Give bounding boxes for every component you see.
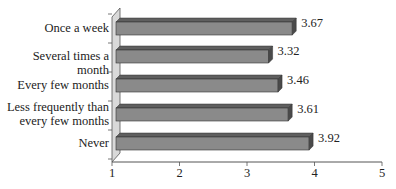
value-label: 3.32 [278,44,300,58]
value-label: 3.46 [287,73,309,87]
value-label: 3.92 [318,131,340,145]
x-tick-label: 4 [305,166,325,181]
value-label: 3.67 [301,16,323,30]
bar [116,133,313,150]
category-label: Never [78,136,109,150]
bars-group [116,18,313,150]
category-label: Less frequently than every few months [7,100,109,128]
bar [116,104,292,121]
x-tick-label: 2 [170,166,190,181]
value-label: 3.61 [297,102,319,116]
bar [116,46,273,63]
x-tick-label: 1 [102,166,122,181]
bar [116,75,282,92]
x-tick-label: 5 [372,166,392,181]
category-label: Every few months [17,78,109,92]
x-tick-label: 3 [237,166,257,181]
category-label: Several times a month [0,49,109,77]
bar [116,18,296,35]
category-label: Once a week [44,21,109,35]
